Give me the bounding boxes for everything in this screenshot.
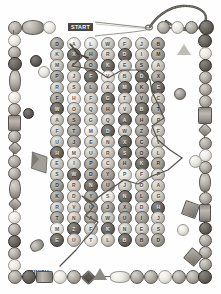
letter-bead-label: U	[68, 234, 80, 246]
letter-bead[interactable]: B	[135, 233, 149, 247]
letter-bead-label: L	[102, 234, 114, 246]
chain-bead	[172, 270, 186, 284]
scatter-bead-round-dark	[23, 108, 34, 119]
letter-bead-label: D	[152, 234, 164, 246]
chain-bead	[171, 21, 184, 34]
letter-bead-label: T	[85, 234, 97, 246]
scatter-bead-triangle	[177, 44, 191, 55]
chain-bead	[43, 21, 56, 34]
chain-bead	[185, 21, 198, 34]
chain-bead	[8, 57, 22, 71]
chain-bead-diamond	[198, 123, 212, 137]
letter-bead-grid: DALWFJBKXHRDIMMCOKESAPJFVBDXRSLXMKEFHFGT…	[50, 37, 172, 277]
letter-bead[interactable]: T	[84, 233, 98, 247]
letter-bead[interactable]: B	[118, 233, 132, 247]
chain-bead-tube	[8, 115, 21, 131]
chain-bead-diamond	[7, 141, 21, 155]
scatter-bead-round-light	[38, 66, 50, 78]
chain-bead	[22, 270, 36, 284]
chain-bead	[8, 270, 22, 284]
scatter-bead-round-dark	[30, 55, 42, 67]
chain-bead	[199, 20, 214, 35]
scatter-bead-round-light	[177, 224, 189, 236]
scatter-bead-bowtie	[31, 152, 47, 173]
chain-bead	[157, 21, 170, 34]
chain-bead-oval	[22, 20, 44, 35]
letter-bead-label: E	[51, 234, 63, 246]
letter-bead[interactable]: L	[101, 233, 115, 247]
chain-bead	[8, 21, 22, 35]
letter-bead[interactable]: E	[50, 233, 64, 247]
chain-bead-oval	[9, 70, 21, 92]
scatter-bead-round	[174, 88, 186, 100]
needle-shaft	[95, 22, 150, 28]
letter-bead[interactable]: D	[151, 233, 165, 247]
chain-bead	[198, 34, 212, 48]
letter-bead[interactable]: U	[67, 233, 81, 247]
scatter-bead-round-light	[189, 155, 202, 168]
chain-bead-oval	[9, 179, 21, 199]
letter-bead-label: B	[136, 234, 148, 246]
scatter-bead-oval	[28, 237, 46, 254]
scatter-bead-cube	[181, 200, 200, 219]
chain-bead	[198, 270, 212, 284]
chain-bead-tube	[199, 204, 211, 222]
start-label: START	[68, 23, 93, 31]
needle-eye	[146, 25, 153, 30]
chain-bead-diamond	[7, 197, 21, 211]
chain-bead-tube	[198, 107, 212, 124]
chain-bead-oval	[199, 173, 211, 192]
letter-bead-label: B	[119, 234, 131, 246]
puzzle-canvas: START FINISH	[0, 0, 221, 294]
